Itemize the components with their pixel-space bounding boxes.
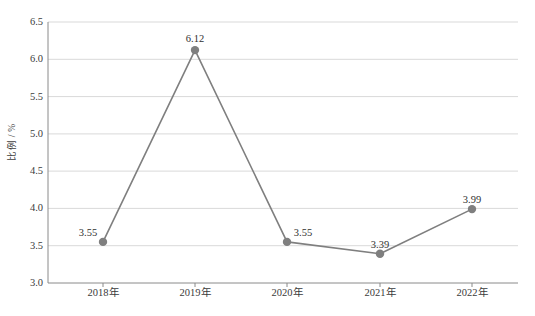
x-axis-tick-labels: 2018年 2019年 2020年 2021年 2022年: [0, 0, 535, 316]
x-tick-label: 2019年: [160, 288, 230, 299]
x-tick-label: 2021年: [345, 288, 415, 299]
cut-off-caption-artifact: [0, 308, 535, 316]
x-tick-label: 2018年: [68, 288, 138, 299]
x-tick-label: 2020年: [252, 288, 322, 299]
line-chart: 比例 / % 3.0 3.5 4.0 4.5 5.0 5.5 6.0 6.5: [0, 0, 535, 316]
x-tick-label: 2022年: [437, 288, 507, 299]
